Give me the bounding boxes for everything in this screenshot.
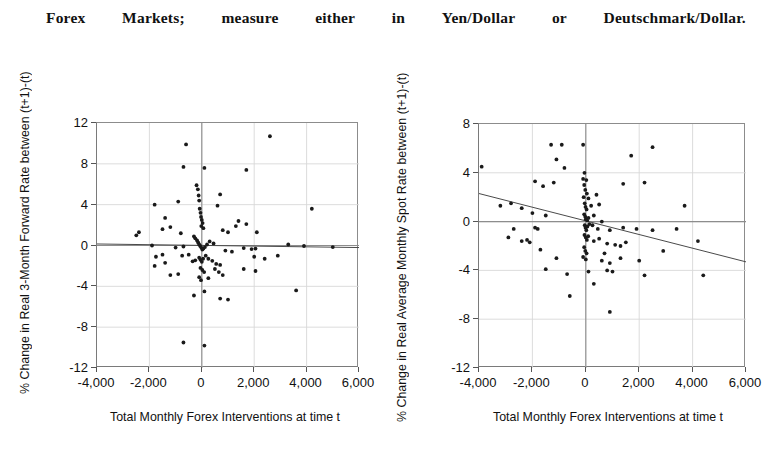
data-point <box>592 239 596 243</box>
x-tick-mark <box>358 367 359 372</box>
data-point <box>234 224 238 228</box>
data-point <box>585 238 589 242</box>
x-tick-mark <box>638 367 639 372</box>
data-point <box>582 245 586 249</box>
data-point <box>237 219 241 223</box>
y-tick-label: -8 <box>426 311 470 326</box>
data-point <box>201 257 205 261</box>
data-point <box>268 134 272 138</box>
data-point <box>608 261 612 265</box>
data-point <box>210 259 214 263</box>
data-point <box>203 344 207 348</box>
data-point <box>192 294 196 298</box>
data-point <box>619 244 623 248</box>
y-tick-mark <box>473 221 478 222</box>
data-point <box>226 230 230 234</box>
data-point <box>583 188 587 192</box>
data-point <box>221 273 225 277</box>
data-point <box>187 253 191 257</box>
data-point <box>651 145 655 149</box>
data-point <box>137 230 141 234</box>
data-point <box>163 216 167 220</box>
data-point <box>182 341 186 345</box>
x-tick-label: -2,000 <box>130 375 167 390</box>
data-point <box>161 253 165 257</box>
data-point <box>701 273 705 277</box>
data-point <box>605 269 609 273</box>
data-point <box>533 179 537 183</box>
scatter-plot-area <box>478 123 745 367</box>
data-point <box>584 178 588 182</box>
data-point <box>509 201 513 205</box>
x-tick-mark <box>201 367 202 372</box>
y-tick-label: 4 <box>426 164 470 179</box>
data-point <box>587 197 591 201</box>
x-tick-label: 0 <box>197 375 204 390</box>
data-point <box>560 143 564 147</box>
data-point <box>585 192 589 196</box>
data-point <box>176 272 180 276</box>
data-point <box>217 270 221 274</box>
data-point <box>250 247 254 251</box>
data-point <box>592 282 596 286</box>
data-point <box>506 236 510 240</box>
y-tick-mark <box>91 326 96 327</box>
data-point <box>230 250 234 254</box>
y-tick-mark <box>91 285 96 286</box>
y-tick-mark <box>473 172 478 173</box>
data-point <box>286 243 290 247</box>
x-axis-title: Total Monthly Forex Interventions at tim… <box>438 410 778 424</box>
data-point <box>520 206 524 210</box>
y-tick-label: 0 <box>44 237 88 252</box>
data-point <box>624 240 628 244</box>
forward-rate-figure: % Change in Real 3-Month Forward Rate be… <box>0 0 392 457</box>
data-point <box>255 230 259 234</box>
y-tick-mark <box>91 122 96 123</box>
data-point <box>600 220 604 224</box>
data-point <box>584 228 588 232</box>
data-point <box>608 228 612 232</box>
data-point <box>549 143 553 147</box>
y-tick-label: -12 <box>44 360 88 375</box>
data-point <box>586 234 590 238</box>
data-point <box>150 244 154 248</box>
x-tick-label: 2,000 <box>237 375 270 390</box>
data-point <box>582 183 586 187</box>
data-point <box>221 228 225 232</box>
data-point <box>536 227 540 231</box>
data-point <box>589 204 593 208</box>
data-point <box>611 270 615 274</box>
data-point <box>528 240 532 244</box>
data-point <box>204 254 208 258</box>
data-point <box>202 270 206 274</box>
data-point <box>619 256 623 260</box>
x-tick-label: 2,000 <box>622 375 655 390</box>
data-point <box>199 278 203 282</box>
data-point <box>242 267 246 271</box>
data-point <box>216 204 220 208</box>
data-point <box>206 276 210 280</box>
y-tick-mark <box>91 245 96 246</box>
data-point <box>218 297 222 301</box>
data-point <box>218 193 222 197</box>
data-point <box>294 289 298 293</box>
data-point <box>675 227 679 231</box>
x-tick-mark <box>745 367 746 372</box>
data-point <box>613 243 617 247</box>
y-tick-label: 0 <box>426 213 470 228</box>
x-tick-label: -4,000 <box>460 375 497 390</box>
data-point <box>163 261 167 265</box>
y-tick-label: 8 <box>426 116 470 131</box>
data-point <box>555 256 559 260</box>
x-tick-label: 6,000 <box>342 375 375 390</box>
data-point <box>596 227 600 231</box>
data-point <box>182 245 186 249</box>
x-tick-label: 4,000 <box>675 375 708 390</box>
data-point <box>201 226 205 230</box>
x-tick-mark <box>148 367 149 372</box>
data-point <box>242 246 246 250</box>
data-point <box>592 214 596 218</box>
data-point <box>595 193 599 197</box>
y-tick-label: 8 <box>44 155 88 170</box>
x-tick-mark <box>692 367 693 372</box>
